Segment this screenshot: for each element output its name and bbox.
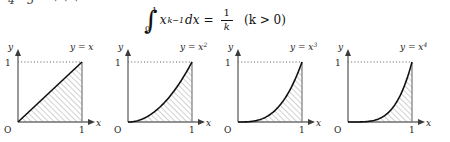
curve-equation-label: y = x3 — [289, 41, 317, 52]
x-axis-arrow-icon — [88, 119, 95, 125]
x-axis-label: x — [426, 118, 431, 128]
fraction-numerator: 1 — [221, 8, 233, 19]
condition-text: (k > 0) — [244, 13, 286, 27]
differential: dx — [185, 13, 199, 27]
y-tick-one-label: 1 — [335, 58, 341, 68]
y-axis-arrow-icon — [125, 49, 131, 56]
integrand-exponent: k−1 — [167, 16, 184, 25]
shaded-area — [238, 62, 302, 122]
x-tick-one-label: 1 — [79, 125, 85, 135]
integrand-base: x — [160, 13, 167, 27]
origin-label: O — [4, 125, 11, 135]
curve-equation-label: y = x2 — [179, 41, 207, 52]
equals-sign: = — [204, 13, 214, 27]
panel-y-equals-x3: yx11Oy = x3 — [220, 40, 330, 142]
y-axis-label: y — [337, 42, 344, 52]
formula-expression: ∫ 1 0 xk−1 dx = 1 k (k > 0) — [144, 8, 286, 32]
cutoff-ellipsis: · · · — [54, 0, 80, 6]
origin-label: O — [334, 125, 341, 135]
origin-label: O — [114, 125, 121, 135]
y-axis-label: y — [7, 42, 14, 52]
x-axis-arrow-icon — [418, 119, 425, 125]
fraction-denominator: k — [221, 22, 233, 33]
panel-y-equals-x4: yx11Oy = x4 — [330, 40, 440, 142]
x-axis-arrow-icon — [308, 119, 315, 125]
graph-panel-row: yx11Oy = xyx11Oy = x2yx11Oy = x3yx11Oy =… — [0, 40, 450, 142]
x-axis-arrow-icon — [198, 119, 205, 125]
curve-equation-label: y = x4 — [399, 41, 427, 52]
y-axis-arrow-icon — [345, 49, 351, 56]
x-tick-one-label: 1 — [299, 125, 305, 135]
shaded-area — [128, 62, 192, 122]
x-tick-one-label: 1 — [189, 125, 195, 135]
y-axis-label: y — [117, 42, 124, 52]
cutoff-denominator-digits: 45 — [8, 0, 46, 7]
x-axis-label: x — [206, 118, 211, 128]
result-fraction: 1 k — [221, 8, 233, 32]
integral-formula: ∫ 1 0 xk−1 dx = 1 k (k > 0) — [0, 8, 450, 32]
panel-y-equals-x2: yx11Oy = x2 — [110, 40, 220, 142]
y-axis-arrow-icon — [15, 49, 21, 56]
panel-y-equals-x: yx11Oy = x — [0, 40, 110, 142]
x-axis-label: x — [96, 118, 101, 128]
x-tick-one-label: 1 — [409, 125, 415, 135]
curve-equation-label: y = x — [69, 42, 93, 52]
integral-upper-limit: 1 — [152, 7, 157, 15]
y-tick-one-label: 1 — [5, 58, 11, 68]
y-axis-label: y — [227, 42, 234, 52]
origin-label: O — [224, 125, 231, 135]
y-axis-arrow-icon — [235, 49, 241, 56]
y-tick-one-label: 1 — [225, 58, 231, 68]
integral-sign: ∫ 1 0 — [144, 10, 158, 30]
x-axis-label: x — [316, 118, 321, 128]
integral-lower-limit: 0 — [145, 25, 150, 33]
y-tick-one-label: 1 — [115, 58, 121, 68]
